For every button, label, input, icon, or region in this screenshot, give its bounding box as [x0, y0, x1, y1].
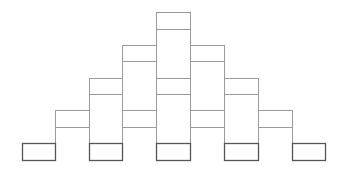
bin-box: [225, 144, 259, 161]
bin-box: [293, 144, 326, 161]
peg-cell: [123, 46, 157, 62]
bin-box: [90, 144, 123, 161]
bin-box: [23, 144, 56, 161]
bin-box: [157, 144, 191, 161]
pyramid-diagram: [0, 0, 343, 170]
peg-cell: [259, 111, 293, 128]
peg-cell: [191, 111, 225, 128]
peg-cell: [191, 46, 225, 62]
peg-cell: [56, 111, 90, 128]
peg-cell: [123, 111, 157, 128]
bins: [23, 144, 326, 161]
peg-cell: [157, 79, 191, 95]
peg-cell: [157, 13, 191, 30]
peg-cell: [90, 79, 123, 95]
peg-cell: [225, 79, 259, 95]
lattice-lines: [56, 13, 293, 144]
